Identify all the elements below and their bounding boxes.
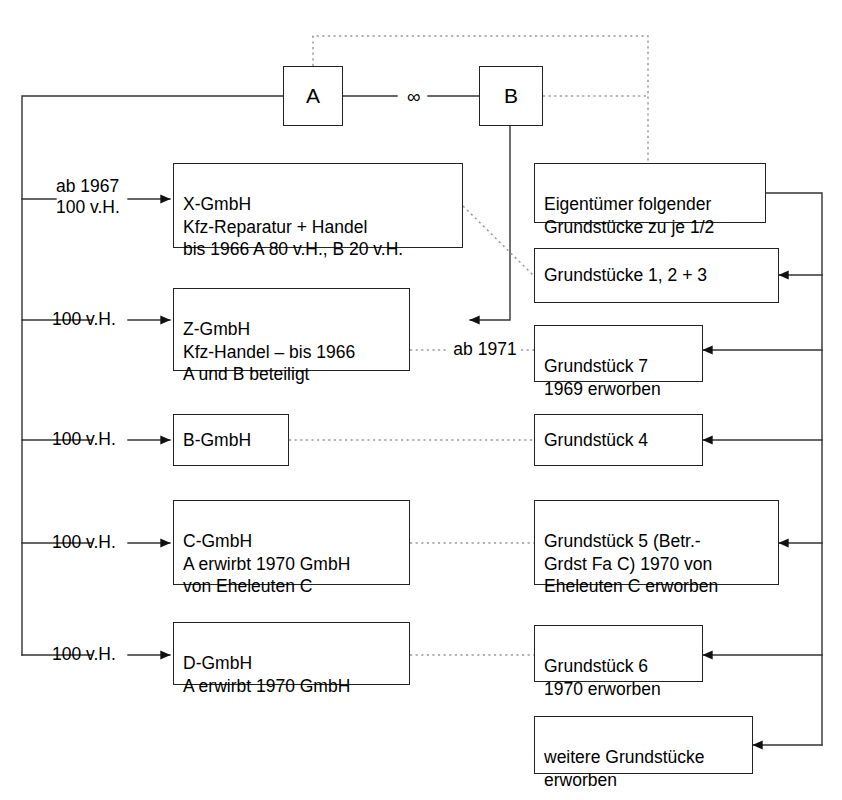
- company-box-d-gmbh-text: D-GmbH A erwirbt 1970 GmbH: [183, 653, 350, 696]
- label-c-share: 100 v.H.: [52, 532, 132, 553]
- property-box-weitere-grundstuecke-text: weitere Grundstücke erworben: [544, 747, 705, 790]
- node-a[interactable]: A: [283, 66, 343, 126]
- label-ab-1971: ab 1971: [449, 339, 521, 360]
- property-box-grundstueck-4[interactable]: Grundstück 4: [534, 414, 703, 466]
- property-box-grundstueck-7[interactable]: Grundstück 7 1969 erworben: [534, 325, 703, 382]
- company-box-z-gmbh-text: Z-GmbH Kfz-Handel – bis 1966 A und B bet…: [183, 319, 355, 385]
- marriage-symbol: ∞: [404, 87, 424, 106]
- label-b-share: 100 v.H.: [52, 429, 132, 450]
- property-box-weitere-grundstuecke[interactable]: weitere Grundstücke erworben: [534, 716, 753, 774]
- node-b[interactable]: B: [479, 66, 543, 126]
- company-box-c-gmbh[interactable]: C-GmbH A erwirbt 1970 GmbH von Eheleuten…: [173, 500, 410, 585]
- dotted-x-gmbh-to-grundstuecke-123: [463, 206, 534, 276]
- company-box-d-gmbh[interactable]: D-GmbH A erwirbt 1970 GmbH: [173, 622, 410, 685]
- label-x-share: ab 1967 100 v.H.: [56, 176, 130, 219]
- node-a-label: A: [306, 82, 320, 109]
- line-b-to-z-gmbh: [470, 126, 510, 320]
- connector-lines: [0, 0, 842, 800]
- property-box-grundstueck-5-text: Grundstück 5 (Betr.- Grdst Fa C) 1970 vo…: [544, 531, 718, 597]
- property-box-grundstueck-5[interactable]: Grundstück 5 (Betr.- Grdst Fa C) 1970 vo…: [534, 500, 779, 585]
- property-box-grundstueck-7-text: Grundstück 7 1969 erworben: [544, 356, 661, 399]
- diagram-canvas: A B ∞ ab 1967 100 v.H. 100 v.H. 100 v.H.…: [0, 0, 842, 800]
- company-box-x-gmbh-text: X-GmbH Kfz-Reparatur + Handel bis 1966 A…: [183, 194, 403, 260]
- company-box-b-gmbh-text: B-GmbH: [183, 429, 251, 452]
- label-d-share: 100 v.H.: [52, 644, 132, 665]
- node-b-label: B: [504, 82, 518, 109]
- label-z-share: 100 v.H.: [52, 309, 132, 330]
- property-box-grundstueck-4-text: Grundstück 4: [544, 429, 648, 452]
- property-box-grundstuecke-123[interactable]: Grundstücke 1, 2 + 3: [534, 248, 779, 303]
- property-box-grundstueck-6-text: Grundstück 6 1970 erworben: [544, 656, 661, 699]
- company-box-c-gmbh-text: C-GmbH A erwirbt 1970 GmbH von Eheleuten…: [183, 531, 350, 597]
- company-box-z-gmbh[interactable]: Z-GmbH Kfz-Handel – bis 1966 A und B bet…: [173, 288, 410, 371]
- property-box-grundstueck-6[interactable]: Grundstück 6 1970 erworben: [534, 625, 703, 682]
- company-box-x-gmbh[interactable]: X-GmbH Kfz-Reparatur + Handel bis 1966 A…: [173, 163, 463, 248]
- property-box-eigentuemer[interactable]: Eigentümer folgender Grundstücke zu je 1…: [534, 163, 766, 223]
- property-box-grundstuecke-123-text: Grundstücke 1, 2 + 3: [544, 264, 707, 287]
- company-box-b-gmbh[interactable]: B-GmbH: [173, 414, 289, 466]
- property-box-eigentuemer-text: Eigentümer folgender Grundstücke zu je 1…: [544, 194, 714, 237]
